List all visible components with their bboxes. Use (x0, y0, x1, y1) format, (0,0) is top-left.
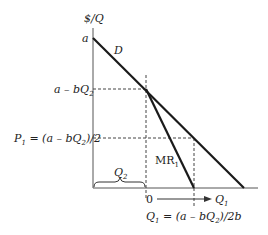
intercept-label: a (82, 32, 89, 45)
x-axis-label: Q1 (215, 193, 229, 208)
demand-label: D (113, 44, 123, 57)
optimal-qty-label: Q1 = (a – bQ2)/2b (146, 210, 242, 225)
q2-brace (94, 178, 145, 187)
brace-label: Q2 (114, 166, 128, 181)
origin-label: 0 (146, 193, 153, 206)
arrow-right-icon (204, 196, 212, 202)
mr-label: MR1 (155, 154, 179, 169)
residual-demand-diagram: $/Q a D a – bQ2 P1 = (a – bQ2)/2 MR1 Q2 … (0, 0, 268, 235)
optimal-price-label: P1 = (a – bQ2)/2 (13, 132, 101, 147)
y-axis-label: $/Q (84, 12, 104, 25)
price-level-label: a – bQ2 (54, 83, 94, 98)
